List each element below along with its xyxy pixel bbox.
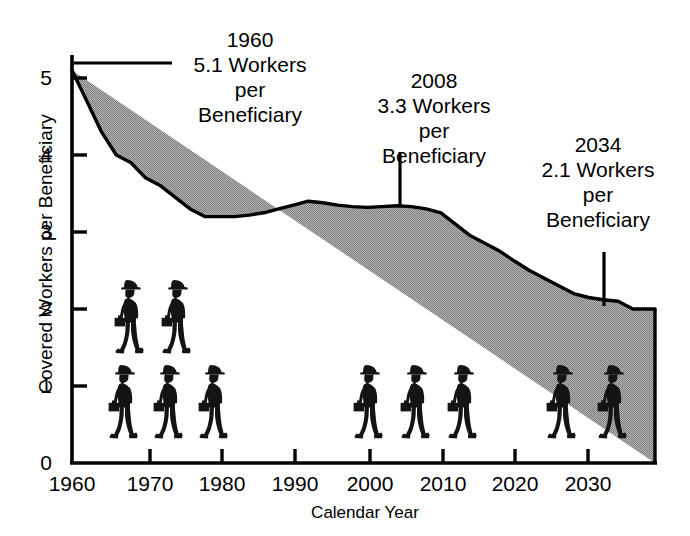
y-tick-label-4: 4	[30, 144, 52, 165]
annotation-2034-value: 2.1 Workers	[508, 157, 688, 182]
y-axis-ticks	[72, 78, 87, 386]
x-axis-title: Calendar Year	[245, 503, 485, 523]
annotation-1960-per: per	[152, 77, 348, 102]
y-tick-label-2: 2	[30, 298, 52, 319]
x-tick-label-2030: 2030	[556, 473, 620, 494]
annotation-1960-unit: Beneficiary	[152, 102, 348, 127]
x-tick-label-1980: 1980	[190, 473, 254, 494]
annotation-2034-year: 2034	[508, 132, 688, 157]
annotation-1960-year: 1960	[152, 27, 348, 52]
annotation-2008: 2008 3.3 Workers per Beneficiary	[336, 68, 532, 168]
annotation-2008-value: 3.3 Workers	[336, 93, 532, 118]
pictogram-group-2008	[354, 365, 477, 438]
annotation-2034-unit: Beneficiary	[508, 207, 688, 232]
annotation-2034-per: per	[508, 182, 688, 207]
y-tick-label-1: 1	[30, 375, 52, 396]
annotation-2034: 2034 2.1 Workers per Beneficiary	[508, 132, 688, 232]
y-tick-label-3: 3	[30, 221, 52, 242]
x-tick-label-2020: 2020	[483, 473, 547, 494]
x-tick-label-1960: 1960	[40, 473, 104, 494]
pictogram-group-1960	[109, 280, 228, 438]
y-tick-label-0: 0	[30, 452, 52, 473]
y-tick-label-5: 5	[30, 67, 52, 88]
x-tick-label-1990: 1990	[263, 473, 327, 494]
annotation-1960: 1960 5.1 Workers per Beneficiary	[152, 27, 348, 127]
x-tick-label-2000: 2000	[338, 473, 402, 494]
annotation-2008-unit: Beneficiary	[336, 143, 532, 168]
x-tick-label-2010: 2010	[411, 473, 475, 494]
x-axis-ticks	[150, 449, 588, 463]
annotation-1960-value: 5.1 Workers	[152, 52, 348, 77]
workers-per-beneficiary-chart: Covered Workers per Beneficiary 5 4 3 2 …	[0, 0, 690, 536]
x-tick-label-1970: 1970	[118, 473, 182, 494]
annotation-2008-per: per	[336, 118, 532, 143]
annotation-2008-year: 2008	[336, 68, 532, 93]
